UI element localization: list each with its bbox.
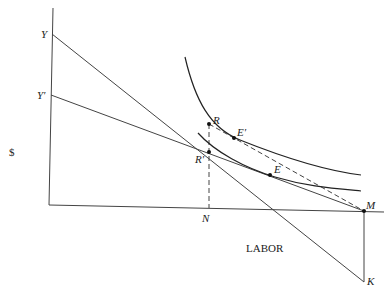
label-Y: Y — [41, 28, 49, 40]
label-N: N — [201, 212, 210, 224]
y-axis — [49, 8, 53, 205]
point-R-prime — [207, 150, 211, 154]
point-E-prime — [232, 136, 236, 140]
indifference-curve-upper — [185, 57, 361, 175]
y-axis-label: $ — [9, 146, 15, 158]
label-M: M — [365, 199, 376, 211]
point-E — [268, 173, 272, 177]
x-axis — [49, 205, 384, 212]
budget-line-Y-K — [52, 34, 364, 282]
indifference-curve-lower — [198, 133, 361, 191]
label-R: R — [212, 114, 220, 126]
label-E: E — [273, 163, 281, 175]
label-K: K — [366, 275, 375, 287]
x-axis-label: LABOR — [246, 242, 284, 254]
labor-diagram: Y Y′ R R′ E′ E N M K $ LABOR — [0, 0, 391, 293]
label-Y-prime: Y′ — [37, 89, 46, 101]
label-R-prime: R′ — [194, 153, 205, 165]
point-R — [207, 122, 211, 126]
label-E-prime: E′ — [236, 126, 247, 138]
